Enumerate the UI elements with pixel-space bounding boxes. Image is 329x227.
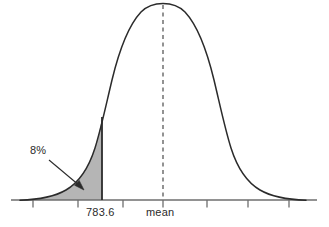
area-percent-label: 8% [30,144,46,156]
mean-tick-label: mean [146,206,174,218]
callout-arrow [49,160,84,190]
threshold-tick-label: 783.6 [86,206,115,218]
distribution-chart-svg [0,0,329,227]
normal-distribution-figure: 8% 783.6 mean [0,0,329,227]
shaded-tail-area [22,117,102,200]
